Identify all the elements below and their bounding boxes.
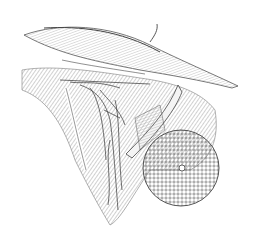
engraving-drawing [0, 0, 256, 246]
nipple [179, 165, 185, 171]
anatomical-illustration [0, 0, 256, 246]
breast [143, 130, 219, 206]
